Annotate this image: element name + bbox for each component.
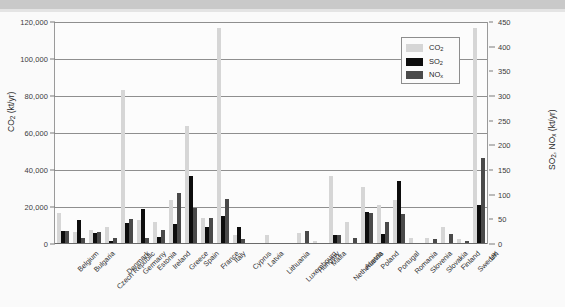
- y-tick-mark-right: [489, 244, 495, 245]
- bar-group: [105, 22, 118, 244]
- legend-label: SO2: [429, 57, 443, 66]
- bar-group: [473, 22, 486, 244]
- top-band: [0, 0, 565, 9]
- legend-item: NOx: [406, 69, 455, 81]
- chart-legend: CO2SO2NOx: [401, 37, 460, 84]
- y-tick-mark-right: [489, 194, 495, 195]
- y-tick-mark-right: [489, 96, 495, 97]
- bar-group: [361, 22, 374, 244]
- y-tick-mark-right: [489, 71, 493, 72]
- legend-label: NOx: [429, 70, 443, 79]
- y-tick-label-left: 120,000: [20, 18, 48, 27]
- y-tick-mark-left: [50, 96, 55, 97]
- bar-group: [73, 22, 86, 244]
- y-tick-label-left: 60,000: [24, 129, 48, 138]
- bar-co2: [441, 227, 445, 244]
- bar-group: [185, 22, 198, 244]
- bar-group: [201, 22, 214, 244]
- y-tick-mark-right: [489, 219, 493, 220]
- legend-swatch: [406, 44, 423, 52]
- bar-group: [169, 22, 182, 244]
- y-tick-label-left: 80,000: [24, 92, 48, 101]
- chart-figure: CO2 (kt/yr) SO2, NOx (kt/yr) 020,00040,0…: [0, 0, 565, 307]
- bar-nox: [401, 214, 405, 244]
- bar-group: [153, 22, 166, 244]
- bar-group: [57, 22, 70, 244]
- bar-group: [217, 22, 230, 244]
- y-tick-label-right: 150: [498, 166, 511, 175]
- bar-nox: [209, 218, 213, 244]
- legend-swatch: [406, 71, 423, 79]
- y-tick-mark-right: [489, 22, 493, 23]
- y-tick-label-right: 400: [498, 42, 511, 51]
- bar-nox: [369, 213, 373, 244]
- bar-group: [121, 22, 134, 244]
- y-tick-label-right: 50: [498, 215, 506, 224]
- y-axis-left-title: CO2 (kt/yr): [6, 92, 16, 132]
- y-tick-label-right: 200: [498, 141, 511, 150]
- bar-co2: [217, 28, 221, 244]
- bar-co2: [345, 222, 349, 244]
- y-tick-mark-left: [50, 170, 55, 171]
- y-tick-label-left: 40,000: [24, 166, 48, 175]
- y-axis-right-title: SO2, NOx (kt/yr): [547, 109, 557, 170]
- bar-nox: [161, 230, 165, 244]
- bar-group: [281, 22, 294, 244]
- y-tick-mark-right: [489, 120, 493, 121]
- y-tick-label-right: 450: [498, 18, 511, 27]
- bar-group: [249, 22, 262, 244]
- y-tick-mark-right: [489, 46, 495, 47]
- y-axis-right-line: [487, 22, 488, 244]
- y-tick-label-left: 100,000: [20, 55, 48, 64]
- bar-group: [313, 22, 326, 244]
- y-tick-mark-left: [50, 22, 55, 23]
- legend-swatch: [406, 58, 423, 66]
- bar-co2: [121, 90, 125, 244]
- legend-label: CO2: [429, 43, 443, 52]
- y-tick-label-right: 300: [498, 92, 511, 101]
- y-tick-label-right: 350: [498, 67, 511, 76]
- bar-group: [297, 22, 310, 244]
- legend-item: SO2: [406, 56, 455, 68]
- legend-item: CO2: [406, 42, 455, 54]
- bar-group: [265, 22, 278, 244]
- y-tick-label-right: 100: [498, 190, 511, 199]
- bar-nox: [65, 231, 69, 244]
- bar-group: [89, 22, 102, 244]
- bar-group: [329, 22, 342, 244]
- y-tick-mark-right: [489, 170, 493, 171]
- y-tick-label-left: 20,000: [24, 203, 48, 212]
- bar-nox: [177, 193, 181, 244]
- bar-nox: [129, 219, 133, 244]
- y-tick-label-right: 250: [498, 116, 511, 125]
- y-tick-mark-left: [50, 59, 55, 60]
- bar-group: [137, 22, 150, 244]
- top-band-shadow: [0, 9, 565, 12]
- y-tick-label-right: 0: [498, 240, 502, 249]
- x-axis-line: [55, 243, 487, 244]
- bar-nox: [225, 199, 229, 244]
- bar-nox: [193, 208, 197, 244]
- y-tick-mark-right: [489, 145, 495, 146]
- bar-nox: [385, 222, 389, 244]
- bar-nox: [481, 158, 485, 244]
- y-tick-mark-left: [50, 133, 55, 134]
- y-tick-mark-left: [50, 207, 55, 208]
- bar-group: [377, 22, 390, 244]
- bar-co2: [329, 176, 333, 244]
- bar-group: [233, 22, 246, 244]
- bar-group: [345, 22, 358, 244]
- y-tick-label-left: 0: [44, 240, 48, 249]
